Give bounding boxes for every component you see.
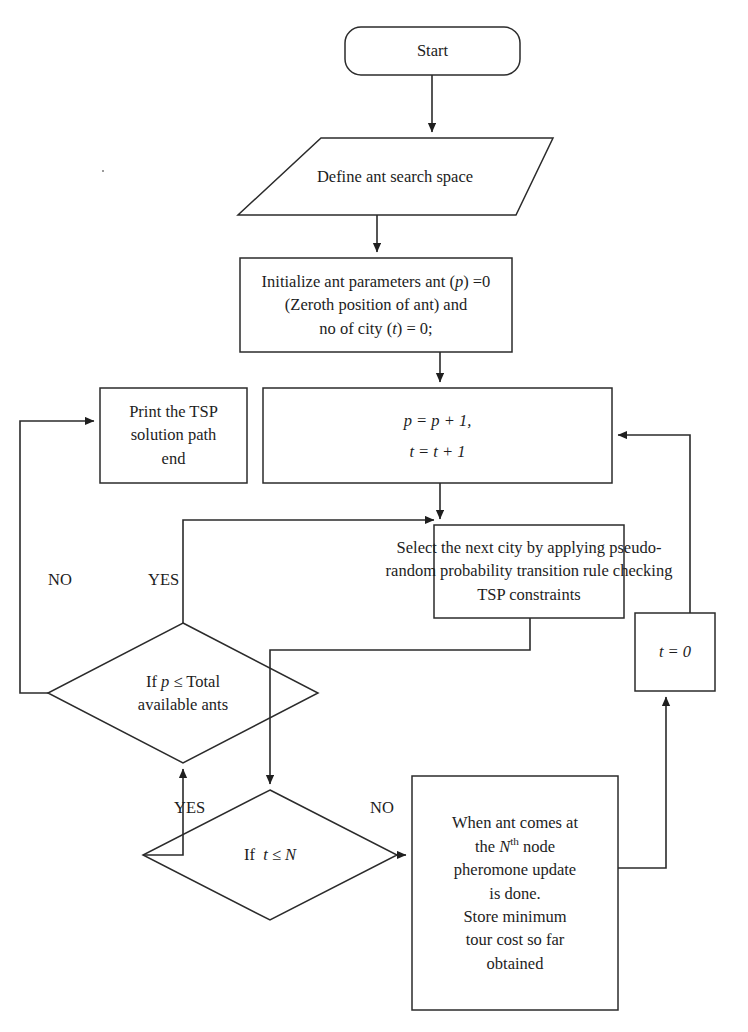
edge-no-ants-to-print — [20, 421, 94, 693]
print-solution-shape — [100, 388, 247, 483]
edge-pheromone-to-reset — [618, 697, 666, 868]
pheromone-update-shape — [412, 776, 618, 1010]
edge-reset-to-increment — [618, 435, 690, 613]
flowchart-connectors-and-shapes — [0, 0, 748, 1032]
edge-label-no-ants: NO — [48, 570, 72, 590]
edge-select-to-check-nodes — [270, 618, 530, 784]
edge-label-no-nodes: NO — [370, 798, 394, 818]
select-next-city-shape — [434, 525, 624, 618]
start-shape — [345, 27, 520, 75]
check-total-ants-shape — [48, 623, 318, 763]
edge-yes-ants-to-select — [183, 520, 434, 623]
edge-label-yes-ants: YES — [148, 570, 179, 590]
edge-label-yes-nodes: YES — [174, 798, 205, 818]
scan-speck — [102, 170, 104, 172]
flowchart-canvas: Start Define ant search space Initialize… — [0, 0, 748, 1032]
initialize-shape — [240, 258, 512, 352]
increment-shape — [263, 388, 612, 483]
define-search-space-shape — [238, 138, 553, 215]
reset-city-counter-shape — [635, 613, 715, 691]
